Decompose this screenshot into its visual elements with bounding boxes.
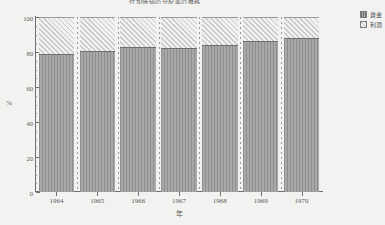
bar-separator <box>240 17 241 192</box>
stacked-bar-chart: 付加価値の分配率の推移 % 020406080100 年 賃金 利潤 19641… <box>0 0 385 225</box>
x-axis-tick-mark <box>56 192 57 196</box>
bar-segment-profit[interactable] <box>39 17 75 54</box>
bar-segment-wages[interactable] <box>243 41 279 192</box>
y-axis-tick-label: 0 <box>30 190 33 197</box>
y-axis-minor-tick <box>35 183 37 184</box>
y-axis-minor-tick <box>35 166 37 167</box>
x-axis-tick-mark <box>220 192 221 196</box>
y-axis-tick-label: 80 <box>27 50 34 57</box>
x-axis-tick-mark <box>138 192 139 196</box>
y-axis-minor-tick <box>35 35 37 36</box>
bar-group[interactable] <box>202 17 238 192</box>
y-axis-minor-tick <box>35 105 37 106</box>
x-axis-tick-label: 1965 <box>90 197 104 205</box>
bar-separator <box>199 17 200 192</box>
y-axis-minor-tick <box>35 61 37 62</box>
bar-segment-profit[interactable] <box>202 17 238 45</box>
legend-item-wages: 賃金 <box>360 11 382 18</box>
bar-segment-wages[interactable] <box>120 47 156 192</box>
bar-segment-profit[interactable] <box>284 17 320 38</box>
legend-swatch-wages-icon <box>360 11 367 18</box>
bar-group[interactable] <box>120 17 156 192</box>
x-axis-tick-label: 1964 <box>49 197 63 205</box>
legend-swatch-profit-icon <box>360 21 367 28</box>
chart-title: 付加価値の分配率の推移 <box>0 0 330 4</box>
y-axis-tick-label: 60 <box>27 85 34 92</box>
y-axis-minor-tick <box>35 131 37 132</box>
x-axis-tick-mark <box>97 192 98 196</box>
y-axis-minor-tick <box>35 148 37 149</box>
legend-item-profit: 利潤 <box>360 21 382 28</box>
bar-segment-profit[interactable] <box>161 17 197 48</box>
x-axis-tick-label: 1967 <box>172 197 186 205</box>
bar-segment-wages[interactable] <box>80 51 116 192</box>
y-axis-tick: 100 <box>23 8 36 26</box>
y-axis-minor-tick <box>35 113 37 114</box>
y-axis-minor-tick <box>35 43 37 44</box>
legend-label-wages: 賃金 <box>370 12 382 18</box>
bar-separator <box>77 17 78 192</box>
y-axis-minor-tick <box>35 96 37 97</box>
x-axis-title: 年 <box>36 208 322 218</box>
plot-area: 020406080100 <box>36 17 322 192</box>
x-axis-tick-label: 1966 <box>131 197 145 205</box>
bar-group[interactable] <box>80 17 116 192</box>
y-axis-title: % <box>6 99 12 107</box>
bar-group[interactable] <box>284 17 320 192</box>
x-axis-tick-mark <box>179 192 180 196</box>
chart-legend: 賃金 利潤 <box>360 11 382 31</box>
legend-label-profit: 利潤 <box>370 22 382 28</box>
x-axis-tick-label: 1970 <box>295 197 309 205</box>
bar-segment-wages[interactable] <box>284 38 320 192</box>
bar-separator <box>281 17 282 192</box>
bar-segment-wages[interactable] <box>39 54 75 192</box>
y-axis-tick: 40 <box>27 113 37 131</box>
bar-group[interactable] <box>39 17 75 192</box>
y-axis-tick: 80 <box>27 43 37 61</box>
y-axis-tick: 0 <box>30 183 36 201</box>
x-axis-tick-label: 1968 <box>213 197 227 205</box>
y-axis-minor-tick <box>35 78 37 79</box>
y-axis-tick-label: 20 <box>27 155 34 162</box>
bar-segment-wages[interactable] <box>161 48 197 192</box>
x-axis-tick-mark <box>261 192 262 196</box>
y-axis-tick: 60 <box>27 78 37 96</box>
x-axis-tick-label: 1969 <box>254 197 268 205</box>
y-axis-minor-tick <box>35 26 37 27</box>
bar-segment-profit[interactable] <box>80 17 116 51</box>
y-axis-tick-mark <box>36 192 40 193</box>
y-axis-minor-tick <box>35 175 37 176</box>
bar-group[interactable] <box>161 17 197 192</box>
bar-segment-profit[interactable] <box>243 17 279 41</box>
y-axis-tick-label: 40 <box>27 120 34 127</box>
x-axis-tick-mark <box>302 192 303 196</box>
y-axis-minor-tick <box>35 140 37 141</box>
y-axis-tick: 20 <box>27 148 37 166</box>
bar-separator <box>118 17 119 192</box>
y-axis-minor-tick <box>35 70 37 71</box>
bar-segment-profit[interactable] <box>120 17 156 47</box>
bar-segment-wages[interactable] <box>202 45 238 192</box>
bar-group[interactable] <box>243 17 279 192</box>
bar-separator <box>159 17 160 192</box>
y-axis-tick-label: 100 <box>23 15 33 22</box>
